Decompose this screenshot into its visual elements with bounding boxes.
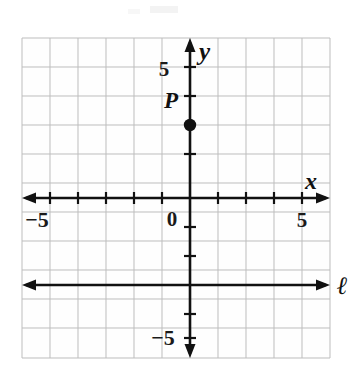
line-l-label: ℓ (337, 272, 348, 299)
coordinate-plane-svg: y 5 P x −5 0 5 −5 ℓ (0, 0, 362, 382)
y-tick-label-5: 5 (159, 57, 170, 81)
origin-label: 0 (167, 207, 178, 231)
point-p-label: P (163, 88, 179, 113)
x-axis-label: x (304, 168, 317, 194)
coordinate-plane-figure: y 5 P x −5 0 5 −5 ℓ (0, 0, 362, 382)
y-axis-label: y (196, 38, 211, 65)
point-p-marker (184, 119, 196, 131)
x-tick-label-neg5: −5 (25, 207, 49, 232)
scan-artifact (128, 9, 140, 14)
x-tick-label-5: 5 (297, 208, 308, 232)
scan-artifact (150, 6, 178, 13)
y-tick-label-neg5: −5 (151, 325, 175, 350)
